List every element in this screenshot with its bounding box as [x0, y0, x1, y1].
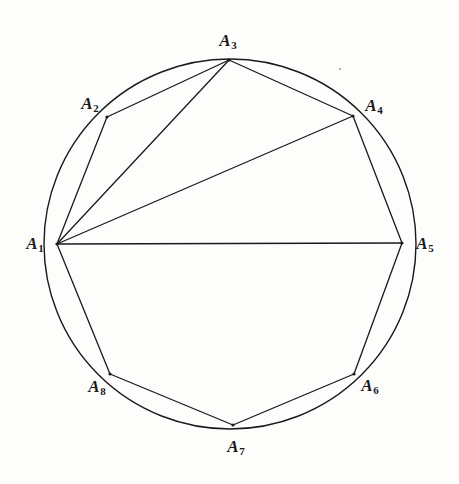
chord-a5-a6 [354, 243, 402, 374]
vertex-label-index: 2 [93, 103, 99, 115]
vertex-label-letter: A [365, 96, 376, 115]
vertex-point-a1 [55, 242, 58, 245]
vertex-label-index: 8 [100, 386, 106, 398]
chord-a1-a3 [57, 60, 229, 244]
vertex-label-letter: A [361, 376, 372, 395]
vertex-label-index: 5 [428, 243, 434, 255]
vertex-label-a8: A8 [88, 378, 105, 397]
chord-a4-a5 [353, 116, 402, 243]
vertex-point-a8 [108, 372, 111, 375]
vertex-label-a4: A4 [365, 97, 382, 116]
vertex-label-a2: A2 [81, 95, 98, 114]
vertex-label-a6: A6 [361, 377, 378, 396]
vertex-point-a4 [351, 114, 354, 117]
vertex-label-letter: A [81, 94, 92, 113]
vertex-point-a2 [105, 115, 108, 118]
vertex-point-a7 [231, 423, 234, 426]
vertex-label-letter: A [227, 437, 238, 456]
vertex-label-index: 4 [377, 105, 383, 117]
vertex-label-a3: A3 [219, 32, 236, 51]
vertex-label-a1: A1 [26, 235, 43, 254]
vertex-label-letter: A [88, 377, 99, 396]
vertex-point-a3 [227, 58, 230, 61]
chord-group [57, 60, 402, 425]
figure-canvas: A1A2A3A4A5A6A7A8 [0, 0, 459, 484]
vertex-label-index: 6 [373, 385, 379, 397]
chord-a1-a4 [57, 116, 353, 244]
vertex-label-a5: A5 [416, 235, 433, 254]
scan-speck [339, 68, 341, 70]
vertex-label-index: 3 [231, 40, 237, 52]
vertex-label-index: 1 [38, 243, 44, 255]
vertex-label-a7: A7 [227, 438, 244, 457]
vertex-point-a5 [400, 241, 403, 244]
vertex-label-letter: A [26, 234, 37, 253]
chord-a2-a3 [107, 60, 229, 117]
vertex-label-letter: A [416, 234, 427, 253]
chord-a1-a5 [57, 243, 402, 244]
chord-a3-a4 [229, 60, 353, 116]
vertex-label-letter: A [219, 31, 230, 50]
vertex-point-a6 [352, 372, 355, 375]
chord-a8-a1 [57, 244, 110, 374]
vertex-label-index: 7 [239, 446, 245, 458]
diagram-svg [0, 0, 459, 484]
